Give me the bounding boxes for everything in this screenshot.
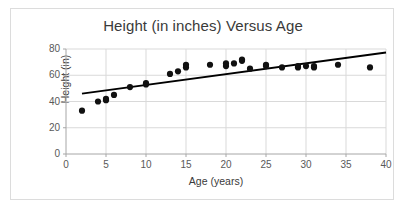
data-point: [279, 64, 285, 70]
y-tick-label-0: 0: [34, 149, 60, 159]
data-point: [263, 62, 269, 68]
data-point: [127, 84, 133, 90]
data-point: [95, 98, 101, 104]
y-tick-label-80: 80: [34, 44, 60, 54]
data-point: [231, 60, 237, 66]
data-point: [111, 92, 117, 98]
data-point: [223, 60, 229, 66]
chart-card: Height (in inches) Versus Age Height (in…: [10, 8, 394, 200]
x-tick-label-40: 40: [374, 160, 398, 170]
x-tick-label-0: 0: [54, 160, 78, 170]
x-tick-label-25: 25: [254, 160, 278, 170]
data-point: [247, 66, 253, 72]
x-tick-label-10: 10: [134, 160, 158, 170]
data-point: [79, 108, 85, 114]
data-point: [175, 68, 181, 74]
data-point: [335, 62, 341, 68]
data-point: [207, 62, 213, 68]
x-tick-label-35: 35: [334, 160, 358, 170]
data-point: [239, 56, 245, 62]
data-point: [103, 96, 109, 102]
data-point: [311, 63, 317, 69]
plot-area: [66, 49, 386, 154]
data-point: [295, 63, 301, 69]
x-axis-title: Age (years): [56, 175, 376, 187]
x-tick-label-5: 5: [94, 160, 118, 170]
data-point: [303, 63, 309, 69]
y-tick-label-20: 20: [34, 123, 60, 133]
chart-title: Height (in inches) Versus Age: [11, 17, 395, 34]
data-point: [167, 71, 173, 77]
data-point: [367, 64, 373, 70]
y-tick-label-60: 60: [34, 70, 60, 80]
y-tick-label-40: 40: [34, 97, 60, 107]
data-point: [183, 62, 189, 68]
scatter-plot-svg: [66, 49, 386, 154]
x-tick-label-30: 30: [294, 160, 318, 170]
data-point: [143, 80, 149, 86]
x-tick-label-20: 20: [214, 160, 238, 170]
x-tick-label-15: 15: [174, 160, 198, 170]
